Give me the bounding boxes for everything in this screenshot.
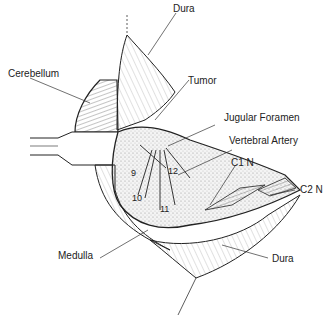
anatomical-diagram: Dura Cerebellum Tumor Jugular Foramen Ve… (0, 0, 332, 317)
label-c2-nerve: C2 N (300, 184, 323, 195)
label-c1-nerve: C1 N (231, 157, 254, 168)
label-medulla: Medulla (58, 250, 93, 261)
nerve-number-10: 10 (132, 193, 142, 203)
label-vertebral-artery: Vertebral Artery (229, 135, 298, 146)
nerve-number-9: 9 (131, 168, 136, 178)
nerve-number-12: 12 (168, 166, 178, 176)
label-jugular-foramen: Jugular Foramen (224, 112, 300, 123)
illustration-drawing (0, 0, 332, 317)
label-tumor: Tumor (188, 75, 217, 86)
label-dura-top: Dura (173, 3, 195, 14)
nerve-number-11: 11 (160, 204, 169, 214)
label-dura-bottom: Dura (272, 253, 294, 264)
label-cerebellum: Cerebellum (8, 68, 59, 79)
